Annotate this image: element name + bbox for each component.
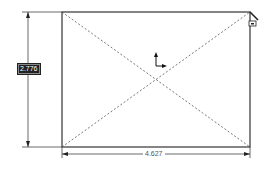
- vertical-dimension[interactable]: [22, 12, 62, 147]
- origin-axes-icon: [154, 52, 167, 68]
- width-dimension-value[interactable]: 4.627: [143, 150, 165, 158]
- height-dimension-value[interactable]: 2.776: [18, 64, 40, 74]
- sketch-canvas[interactable]: [0, 0, 273, 171]
